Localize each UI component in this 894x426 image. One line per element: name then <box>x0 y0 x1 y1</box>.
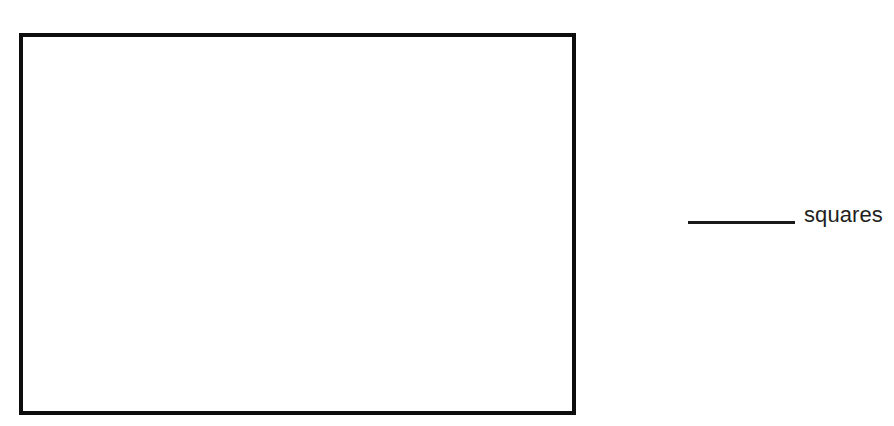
scan-artifact <box>0 0 894 4</box>
rectangle-shape <box>19 33 576 415</box>
answer-unit-label: squares <box>804 203 883 227</box>
answer-blank-line[interactable] <box>688 221 795 224</box>
worksheet-page: squares <box>0 0 894 426</box>
answer-prompt: squares <box>688 193 888 227</box>
